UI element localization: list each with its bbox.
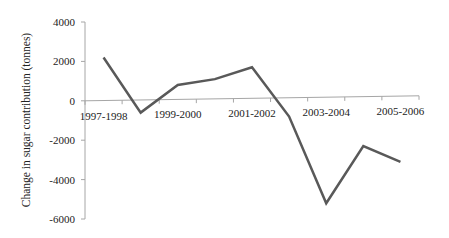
x-tick-label: 2001-2002 [228,107,276,119]
x-tick-label: 2003-2004 [302,106,350,118]
x-tick-label: 1997-1998 [80,110,128,122]
series-group [103,57,400,203]
y-tick-label: -4000 [49,174,75,186]
x-axis-line [85,96,419,101]
series-line [104,57,401,203]
x-tick-label: 1999-2000 [154,108,202,120]
y-tick-label: 4000 [53,16,76,28]
x-tick-label: 2005-2006 [377,105,425,117]
y-tick-label: 0 [70,95,76,107]
y-tick-label: 2000 [53,55,76,67]
y-tick-label: -6000 [49,213,75,225]
line-chart: 400020000-2000-4000-6000 1997-19981999-2… [0,0,449,238]
y-tick-label: -2000 [49,134,75,146]
y-axis-title: Change in sugar contribution (tonnes) [20,33,33,208]
